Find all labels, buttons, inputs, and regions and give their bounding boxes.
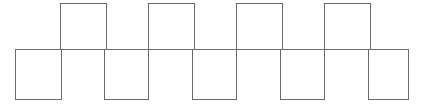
bottom-square-4 [281,50,325,100]
top-square-2 [149,4,195,50]
bottom-square-3 [193,50,237,100]
top-square-3 [237,4,283,50]
bottom-square-5 [369,50,409,100]
top-square-row [61,4,371,50]
top-square-4 [325,4,371,50]
figure-canvas [0,0,421,105]
bottom-square-2 [105,50,149,100]
bottom-square-1 [16,50,62,100]
square-strip-diagram [0,0,421,105]
top-square-1 [61,4,107,50]
bottom-square-row [16,50,409,100]
